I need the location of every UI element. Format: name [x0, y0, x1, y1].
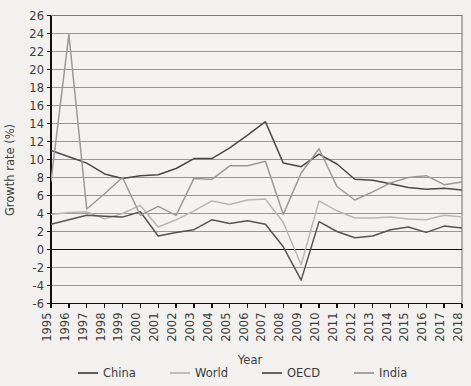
- x-tick-label: 2002: [165, 313, 179, 342]
- x-tick-label: 1998: [94, 313, 108, 342]
- x-tick-label: 2014: [380, 313, 394, 342]
- y-tick-label: 12: [29, 135, 44, 149]
- legend-label-oecd: OECD: [287, 366, 320, 380]
- x-tick-label: 2011: [326, 313, 340, 342]
- x-tick-label: 2010: [308, 313, 322, 342]
- x-tick-label: 2009: [290, 313, 304, 342]
- y-tick-label: 0: [37, 243, 44, 257]
- x-tick-label: 1995: [40, 313, 54, 342]
- y-tick-label: -2: [33, 261, 44, 275]
- y-tick-labels-group: -6-4-202468101214161820222426: [29, 9, 44, 311]
- legend-label-china: China: [103, 366, 136, 380]
- legend-label-india: India: [379, 366, 407, 380]
- gridlines-group: [51, 16, 462, 304]
- x-axis-title: Year: [237, 353, 263, 367]
- y-tick-label: -4: [33, 279, 44, 293]
- y-tick-label: 24: [29, 27, 44, 41]
- x-tick-label: 2003: [183, 313, 197, 342]
- x-tick-label: 2013: [362, 313, 376, 342]
- x-tick-label: 2005: [219, 313, 233, 342]
- x-tick-label: 1999: [111, 313, 125, 342]
- x-tick-labels-group: 1995199619971998199920002001200220032004…: [40, 313, 465, 342]
- y-tick-label: 22: [29, 45, 44, 59]
- x-tick-label: 2016: [415, 313, 429, 342]
- x-tick-label: 2008: [272, 313, 286, 342]
- y-tick-label: 18: [29, 81, 44, 95]
- x-tick-label: 2015: [397, 313, 411, 342]
- y-tick-label: 2: [37, 225, 44, 239]
- y-tick-label: 8: [37, 171, 44, 185]
- y-tick-label: 14: [29, 117, 44, 131]
- y-tick-label: 4: [37, 207, 44, 221]
- y-tick-label: 16: [29, 99, 44, 113]
- x-tick-label: 2018: [451, 313, 465, 342]
- y-tick-label: 20: [29, 63, 44, 77]
- x-tick-label: 2007: [254, 313, 268, 342]
- x-tick-label: 2012: [344, 313, 358, 342]
- x-tick-label: 2001: [147, 313, 161, 342]
- x-tick-label: 2017: [433, 313, 447, 342]
- x-tick-label: 1997: [76, 313, 90, 342]
- x-tick-label: 2006: [237, 313, 251, 342]
- legend-label-world: World: [195, 366, 228, 380]
- x-tick-label: 1996: [58, 313, 72, 342]
- y-axis-title: Growth rate (%): [3, 124, 17, 216]
- y-tick-label: 10: [29, 153, 44, 167]
- chart-svg: -6-4-202468101214161820222426 1995199619…: [0, 0, 471, 386]
- x-tick-label: 2004: [201, 313, 215, 342]
- x-tick-label: 2000: [129, 313, 143, 342]
- legend: ChinaWorldOECDIndia: [78, 366, 407, 380]
- y-tick-label: 6: [37, 189, 44, 203]
- y-tick-label: -6: [33, 297, 44, 311]
- growth-rate-line-chart: -6-4-202468101214161820222426 1995199619…: [0, 0, 471, 386]
- y-tick-label: 26: [29, 9, 44, 23]
